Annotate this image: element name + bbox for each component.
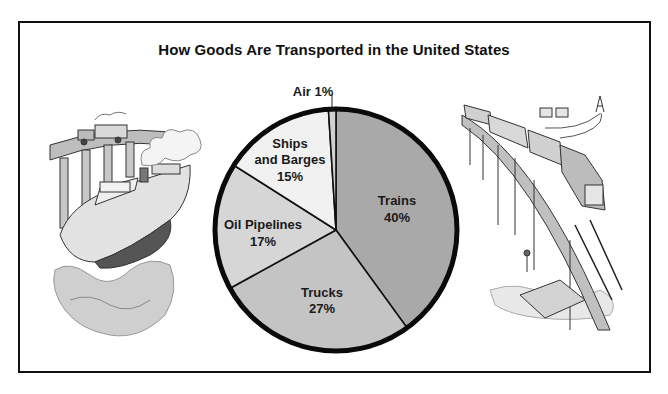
label-trucks-value: 27%	[309, 301, 335, 316]
label-oil-name: Oil Pipelines	[224, 217, 302, 232]
label-trains-name: Trains	[378, 193, 416, 208]
label-ships-name-2: and Barges	[255, 152, 326, 167]
label-trains-value: 40%	[384, 210, 410, 225]
train-illustration-icon	[462, 96, 622, 330]
label-air: Air 1%	[293, 84, 334, 99]
label-ships-name-1: Ships	[272, 136, 307, 151]
label-trucks-name: Trucks	[301, 285, 343, 300]
label-oil-value: 17%	[250, 234, 276, 249]
pie-chart: Air 1% Ships and Barges 15% Trains 40% O…	[0, 0, 668, 394]
ship-illustration-icon	[50, 112, 201, 336]
label-ships-value: 15%	[277, 169, 303, 184]
